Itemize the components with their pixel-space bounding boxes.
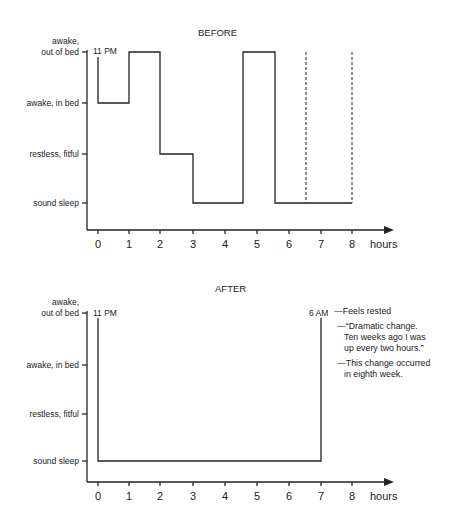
before-start-label: 11 PM [93, 46, 117, 56]
before-ylabel-out-of-bed: out of bed [41, 47, 79, 57]
before-step-line [98, 52, 352, 203]
before-ylabel-out-of-bed: awake, [52, 36, 79, 46]
before-ylabel-restless: restless, fitful [29, 149, 79, 159]
before-xtick: 5 [254, 238, 260, 250]
sleep-charts: BEFORE 11 PM awake, out of bed awake, in… [0, 0, 454, 514]
after-xtick: 5 [254, 490, 260, 502]
after-x-unit: hours [370, 490, 398, 502]
after-x-arrow-icon [384, 478, 394, 486]
after-ylabel-restless: restless, fitful [29, 409, 79, 419]
after-xtick: 8 [349, 490, 355, 502]
before-xtick: 6 [286, 238, 292, 250]
after-xtick: 4 [222, 490, 228, 502]
after-xtick: 7 [318, 490, 324, 502]
after-ylabel-in-bed: awake, in bed [27, 360, 80, 370]
after-title: AFTER [215, 283, 246, 294]
after-end-label: 6 AM [309, 308, 328, 318]
before-xtick: 0 [95, 238, 101, 250]
before-x-arrow-icon [384, 226, 394, 234]
after-ylabel-sound-sleep: sound sleep [33, 456, 79, 466]
before-xtick: 4 [222, 238, 228, 250]
after-xtick: 6 [286, 490, 292, 502]
before-xtick: 7 [318, 238, 324, 250]
after-start-label: 11 PM [93, 308, 117, 318]
before-title: BEFORE [198, 27, 237, 38]
after-ylabel-out-of-bed: awake, [52, 297, 79, 307]
after-note-feels-rested: —Feels rested [334, 306, 391, 317]
before-xtick: 8 [349, 238, 355, 250]
before-ylabel-in-bed: awake, in bed [27, 98, 80, 108]
after-xtick: 3 [190, 490, 196, 502]
before-xtick: 1 [126, 238, 132, 250]
before-ylabel-sound-sleep: sound sleep [33, 198, 79, 208]
after-note-eighth-week-line2: in eighth week. [344, 369, 403, 380]
after-note-quote-line3: up every two hours.” [344, 343, 424, 354]
after-note-eighth-week-line1: —This change occurred [337, 358, 430, 369]
after-note-quote-line1: —“Dramatic change. [337, 321, 418, 332]
after-xtick: 2 [157, 490, 163, 502]
after-xtick: 0 [95, 490, 101, 502]
after-step-line [98, 318, 321, 461]
after-xtick: 1 [126, 490, 132, 502]
after-ylabel-out-of-bed: out of bed [41, 308, 79, 318]
before-xtick: 2 [157, 238, 163, 250]
before-xtick: 3 [190, 238, 196, 250]
before-x-unit: hours [370, 238, 398, 250]
before-chart: BEFORE [82, 27, 394, 234]
after-note-quote-line2: Ten weeks ago I was [344, 332, 426, 343]
